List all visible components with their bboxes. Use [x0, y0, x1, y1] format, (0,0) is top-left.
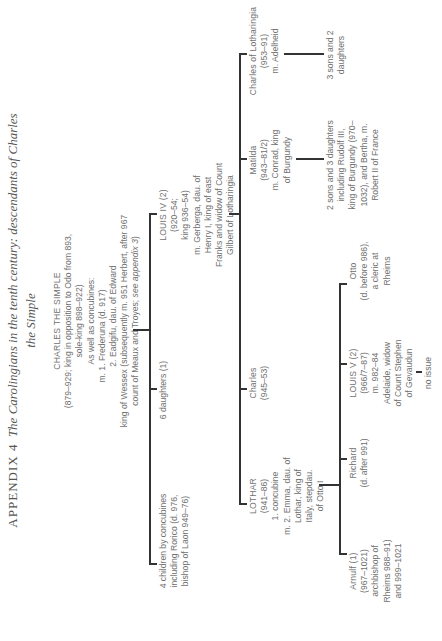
root-line: 2. Eadgifu, dau. of Edward	[108, 215, 119, 417]
connector	[239, 53, 247, 55]
gen3-bar	[339, 284, 341, 555]
appendix-title: APPENDIX 4 The Carolingians in the tenth…	[4, 0, 21, 641]
connector	[133, 329, 150, 331]
node-arnulf: Arnulf (1) (967–1021) archbishop of Rhei…	[348, 539, 404, 602]
connector	[339, 553, 347, 555]
connector	[149, 563, 157, 565]
connector	[239, 503, 247, 505]
node-matilda: Matilda (943–81/2) m. Conrad, king of Bu…	[248, 130, 293, 191]
genealogy-page: APPENDIX 4 The Carolingians in the tenth…	[0, 0, 442, 641]
connector	[239, 388, 247, 390]
node-otto: Otto (d. before 986), a cleric at Rheims	[348, 242, 393, 301]
connector	[319, 484, 340, 486]
connector	[284, 53, 324, 55]
root-line: king of Wessex (subsequently m. 951 Herb…	[119, 215, 130, 427]
appendix-label: APPENDIX 4	[5, 444, 20, 528]
node-charles-the-simple: CHARLES THE SIMPLE (879–929; king in opp…	[52, 215, 142, 427]
node-six-daughters: 6 daughters (1)	[158, 361, 169, 419]
node-charles-of-lotharingia: Charles of Lotharingia (953–91) m. Adelh…	[248, 7, 282, 95]
node-children-by-concubines: 4 children by concubines including Roric…	[158, 494, 192, 589]
title-line-2: the Simple	[22, 0, 39, 641]
connector	[416, 371, 422, 373]
root-line: As well as concubines:	[86, 215, 97, 427]
root-line: m. 1. Frederuna (d. 917)	[97, 215, 108, 457]
root-line: sole-king 898–922)	[74, 215, 85, 427]
connector	[339, 363, 347, 365]
root-line: count of Meaux and Troyes; see appendix …	[130, 215, 141, 427]
gen2-bar	[239, 54, 241, 505]
connector	[239, 158, 247, 160]
connector	[339, 458, 347, 460]
node-lothar: LOTHAR (941–86) 1. concubine m. 2. Emma,…	[248, 457, 326, 534]
node-louis-iv: LOUIS IV (2) (920–54; king 936–54) m. Ge…	[158, 163, 236, 267]
root-line: (879–929; king in opposition to Odo from…	[63, 215, 74, 427]
node-richard: Richard (d. after 991)	[348, 438, 370, 487]
title-line-1: The Carolingians in the tenth century: d…	[5, 113, 20, 437]
connector	[339, 283, 347, 285]
connector	[296, 158, 324, 160]
connector	[149, 388, 157, 390]
root-name: CHARLES THE SIMPLE	[52, 215, 63, 427]
node-charles: Charles (945–53)	[248, 366, 270, 400]
connector	[149, 213, 157, 215]
node-charles-lotharingia-issue: 3 sons and 2 daughters	[325, 30, 347, 79]
node-matilda-issue: 2 sons and 3 daughters including Rudolf …	[325, 120, 381, 210]
node-louis-v: LOUIS V (2) (966/7–87) m. 982–84 Adelaid…	[348, 340, 415, 407]
see-appendix-ref: see appendix 3	[130, 239, 140, 297]
node-louis-v-issue: no issue	[423, 357, 434, 389]
